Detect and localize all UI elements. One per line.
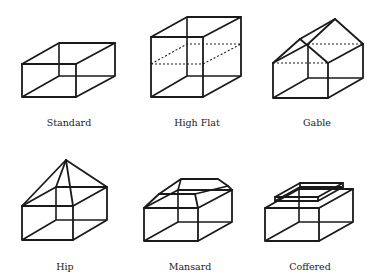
hip-box-drawing — [22, 160, 107, 240]
label-high-flat: High Flat — [174, 117, 220, 128]
gable-box-drawing — [273, 19, 363, 98]
ceiling-types-diagram — [0, 0, 381, 279]
standard-box-drawing — [22, 43, 115, 97]
label-hip: Hip — [56, 261, 73, 272]
label-coffered: Coffered — [289, 261, 331, 272]
label-standard: Standard — [47, 117, 91, 128]
coffered-box-drawing — [265, 183, 353, 241]
label-gable: Gable — [303, 117, 331, 128]
mansard-box-drawing — [144, 179, 232, 241]
high-flat-box-drawing — [151, 17, 241, 97]
label-mansard: Mansard — [169, 261, 212, 272]
